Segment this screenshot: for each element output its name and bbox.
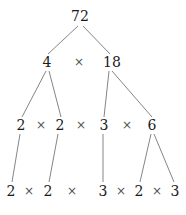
tree-edge <box>112 71 152 117</box>
tree-edge <box>104 71 109 117</box>
tree-node-value: 6 <box>148 118 157 132</box>
tree-edge <box>22 71 46 117</box>
tree-edge <box>140 134 151 182</box>
multiplication-operator-icon: × <box>24 185 34 197</box>
multiplication-operator-icon: × <box>152 185 162 197</box>
tree-node-value: 3 <box>99 184 108 198</box>
tree-edge <box>154 134 174 182</box>
tree-node-value: 2 <box>17 118 26 132</box>
tree-node-value: 3 <box>171 184 180 198</box>
tree-edge <box>48 26 78 54</box>
tree-node-value: 4 <box>43 55 52 69</box>
tree-edges-layer <box>0 0 186 215</box>
multiplication-operator-icon: × <box>122 119 132 131</box>
multiplication-operator-icon: × <box>36 119 46 131</box>
factor-tree-figure: 72418×2236×××22323×××× <box>0 0 186 215</box>
tree-edge <box>49 71 61 117</box>
tree-node-value: 2 <box>7 184 16 198</box>
tree-node-value: 3 <box>100 118 109 132</box>
tree-node-value: 2 <box>56 118 65 132</box>
multiplication-operator-icon: × <box>74 56 84 68</box>
multiplication-operator-icon: × <box>116 185 126 197</box>
tree-edge <box>83 26 110 54</box>
tree-node-value: 18 <box>103 55 121 69</box>
multiplication-operator-icon: × <box>67 185 77 197</box>
multiplication-operator-icon: × <box>76 119 86 131</box>
tree-edge <box>12 134 20 182</box>
tree-edge <box>49 134 58 182</box>
tree-node-value: 72 <box>71 9 89 23</box>
tree-node-value: 2 <box>135 184 144 198</box>
tree-node-value: 2 <box>44 184 53 198</box>
